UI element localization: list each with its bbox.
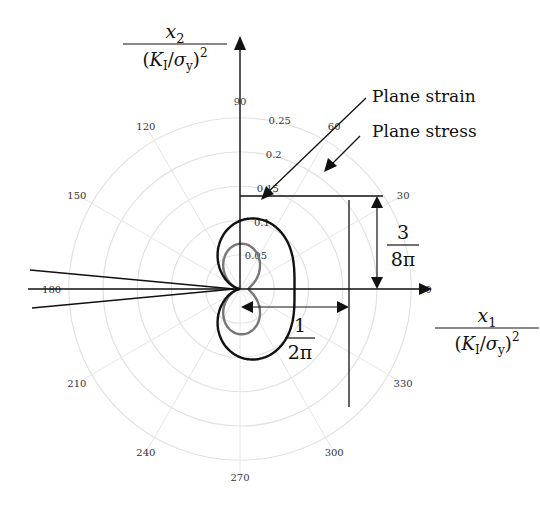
fraction-3-over-8pi-numerator: 3: [397, 221, 409, 243]
y-axis-arrow-icon: [234, 36, 246, 50]
angle-tick-label: 330: [394, 378, 413, 389]
angle-tick-label: 30: [397, 190, 410, 201]
angle-tick-label: 120: [136, 121, 155, 132]
angle-tick-label: 300: [325, 447, 344, 458]
angle-tick-label: 210: [67, 378, 86, 389]
legend-plane-stress: Plane stress: [372, 121, 477, 141]
polar-chart: 03060901201501802102402703003300.050.10.…: [0, 0, 540, 512]
y-axis-label-denominator: (KI/σy)2: [142, 46, 207, 73]
x-axis-label-denominator: (KI/σy)2: [454, 330, 519, 357]
fraction-1-over-2pi-denominator: 2π: [288, 341, 313, 363]
angle-tick-label: 270: [230, 472, 249, 483]
x-axis-label-numerator: x1: [478, 304, 497, 330]
angle-tick-label: 60: [328, 121, 341, 132]
fraction-1-over-2pi-numerator: 1: [294, 314, 306, 336]
radial-tick-label: 0.25: [269, 115, 291, 126]
axes: [28, 36, 432, 308]
y-axis-label-numerator: x2: [166, 20, 185, 46]
radial-tick-label: 0.2: [266, 149, 282, 160]
legend-plane-strain: Plane strain: [372, 86, 476, 106]
angle-tick-label: 150: [67, 190, 86, 201]
angle-tick-label: 240: [136, 447, 155, 458]
fraction-3-over-8pi-denominator: 8π: [391, 248, 416, 270]
text-labels: Plane strainPlane stress38π12πx2(KI/σy)2…: [123, 20, 539, 363]
